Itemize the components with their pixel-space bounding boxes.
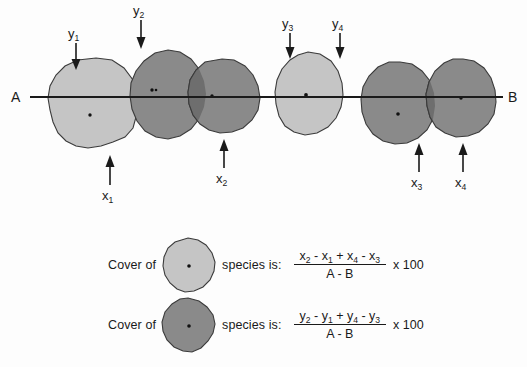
species-is-label-1: species is: [222,258,281,272]
transect-start-label: A [11,89,21,105]
canopy-light-1 [48,58,136,148]
arrow-x2 [220,139,229,168]
label-y2: y2 [133,3,145,20]
label-x3: x3 [411,175,423,192]
formula-light-species: x2 - x1 + x4 - x3 A - B x 100 [294,249,424,281]
label-y3: y3 [282,16,294,33]
denominator-1: A - B [320,265,359,281]
legend-row-dark-species: Cover of species is: y2 - y1 + y4 - y3 A… [108,294,424,356]
canopy-dark-3 [361,62,435,144]
fraction-1: x2 - x1 + x4 - x3 A - B [294,249,387,281]
legend-swatch-dark [158,296,220,354]
cover-of-label-2: Cover of [108,318,156,332]
arrow-x3 [415,143,424,172]
cover-of-label-1: Cover of [108,258,156,272]
numerator-1: x2 - x1 + x4 - x3 [294,249,387,264]
label-y4: y4 [332,16,344,33]
species-is-label-2: species is: [222,318,281,332]
transect-diagram: A B y1 y2 y3 y4 x1 [0,0,527,228]
canopy-center-dot [150,88,153,91]
label-y1: y1 [68,26,80,43]
arrow-x1 [106,155,115,185]
arrow-y3 [286,33,295,59]
diagram-root: A B y1 y2 y3 y4 x1 [0,0,527,367]
fraction-2: y2 - y1 + y4 - y3 A - B [294,309,387,341]
arrow-y4 [336,33,345,59]
label-x1: x1 [102,188,114,205]
multiplier-2: x 100 [393,318,424,332]
arrow-y2 [137,20,146,49]
legend-area: Cover of species is: x2 - x1 + x4 - x3 A… [0,228,527,367]
canopy-center-dot [155,89,158,92]
transect-end-label: B [508,89,517,105]
legend-swatch-light [158,236,220,294]
denominator-2: A - B [320,325,359,341]
canopy-center-dot [396,112,400,116]
canopy-light-2 [275,52,343,135]
numerator-2: y2 - y1 + y4 - y3 [294,309,387,324]
formula-dark-species: y2 - y1 + y4 - y3 A - B x 100 [294,309,424,341]
multiplier-1: x 100 [393,258,424,272]
arrow-x4 [459,143,468,172]
legend-row-light-species: Cover of species is: x2 - x1 + x4 - x3 A… [108,234,424,296]
label-x2: x2 [216,171,228,188]
canopy-center-dot [88,113,91,116]
label-x4: x4 [455,175,467,192]
